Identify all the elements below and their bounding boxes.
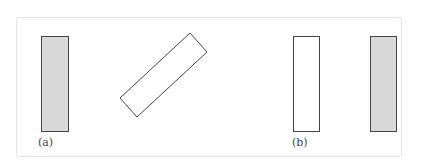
panel-a-label: (a) xyxy=(38,136,53,149)
panel-a-shaded-rectangle xyxy=(42,37,69,132)
panel-a-rotated-rectangle xyxy=(120,33,207,117)
diagram-canvas xyxy=(0,0,439,165)
panel-b-label: (b) xyxy=(292,136,308,149)
panel-b-shaded-rectangle xyxy=(371,37,397,132)
panel-b-white-rectangle xyxy=(294,37,320,132)
